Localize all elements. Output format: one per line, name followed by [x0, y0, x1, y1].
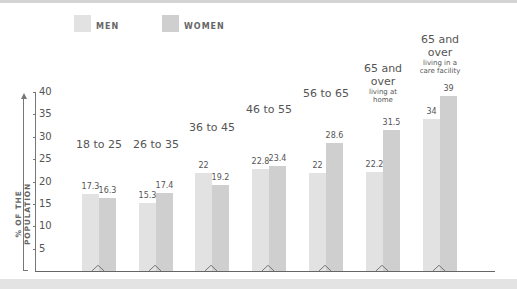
bar-men — [252, 169, 269, 271]
value-label-men: 22.2 — [360, 160, 390, 169]
bar-women — [99, 198, 116, 271]
y-tick — [33, 114, 36, 115]
group-title-subtitle: living at home — [358, 88, 408, 104]
legend-label-men: MEN — [96, 22, 119, 31]
y-tick-label: 5 — [39, 244, 45, 254]
legend-women: WOMEN — [162, 15, 225, 32]
value-label-women: 28.6 — [320, 131, 350, 140]
legend-men: MEN — [74, 15, 119, 32]
y-tick — [33, 159, 36, 160]
legend-swatch-women — [162, 15, 179, 32]
y-tick — [33, 92, 36, 93]
value-label-men: 22 — [303, 161, 333, 170]
y-tick — [33, 204, 36, 205]
top-border — [0, 0, 517, 3]
bar-men — [195, 173, 212, 271]
bar-women — [156, 193, 173, 271]
bar-men — [423, 119, 440, 271]
y-tick-label: 20 — [39, 177, 52, 187]
group-title: 26 to 35 — [111, 138, 201, 151]
bar-men — [82, 194, 99, 271]
bar-women — [383, 130, 400, 271]
value-label-women: 19.2 — [206, 173, 236, 182]
group-title-main: 65 and over — [415, 33, 465, 59]
legend-swatch-men — [74, 15, 91, 32]
bar-men — [366, 172, 383, 271]
y-tick — [33, 182, 36, 183]
group-title-subtitle: living in a care facility — [415, 59, 465, 75]
value-label-men: 22 — [189, 161, 219, 170]
y-axis-arrow-line — [23, 98, 24, 271]
bar-women — [440, 96, 457, 271]
y-tick — [33, 137, 36, 138]
group-title: 36 to 45 — [167, 121, 257, 134]
y-tick-label: 25 — [39, 154, 52, 164]
y-tick-label: 10 — [39, 221, 52, 231]
x-axis-baseline — [35, 271, 495, 272]
value-label-men: 34 — [417, 107, 447, 116]
group-title-main: 26 to 35 — [111, 138, 201, 151]
y-tick-label: 40 — [39, 87, 52, 97]
y-tick-label: 35 — [39, 109, 52, 119]
group-title-main: 36 to 45 — [167, 121, 257, 134]
group-title: 65 and overliving in a care facility — [395, 33, 485, 75]
y-tick-label: 15 — [39, 199, 52, 209]
legend-label-women: WOMEN — [184, 22, 225, 31]
value-label-women: 23.4 — [263, 154, 293, 163]
bar-men — [139, 203, 156, 271]
group-title-main: 46 to 55 — [224, 103, 314, 116]
bar-women — [212, 185, 229, 271]
bottom-border — [0, 279, 517, 289]
y-axis-arrow-foot — [23, 270, 28, 271]
bar-men — [309, 173, 326, 271]
value-label-women: 39 — [434, 84, 464, 93]
group-title: 46 to 55 — [224, 103, 314, 116]
value-label-women: 31.5 — [377, 118, 407, 127]
value-label-women: 17.4 — [150, 181, 180, 190]
y-tick — [33, 249, 36, 250]
value-label-women: 16.3 — [93, 186, 123, 195]
y-tick — [33, 226, 36, 227]
y-tick-label: 30 — [39, 132, 52, 142]
bar-women — [269, 166, 286, 271]
value-label-men: 15.3 — [133, 191, 163, 200]
